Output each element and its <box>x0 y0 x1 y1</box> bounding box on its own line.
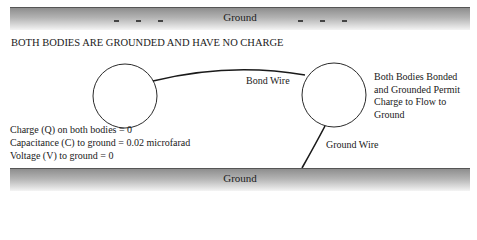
fact-charge: Charge (Q) on both bodies = 0 <box>10 123 190 136</box>
body-left-circle <box>93 64 157 128</box>
bottom-ground-bar: Ground <box>10 168 470 191</box>
right-note-line: Ground <box>374 109 460 122</box>
right-note-line: and Grounded Permit <box>374 84 460 97</box>
fact-capacitance: Capacitance (C) to ground = 0.02 microfa… <box>10 136 190 149</box>
right-note-line: Charge to Flow to <box>374 96 460 109</box>
ground-wire <box>302 126 325 168</box>
right-note: Both Bodies Bonded and Grounded Permit C… <box>374 71 460 121</box>
fact-voltage: Voltage (V) to ground = 0 <box>10 149 190 162</box>
facts-list: Charge (Q) on both bodies = 0 Capacitanc… <box>10 123 190 162</box>
body-right-circle <box>302 63 366 127</box>
ground-wire-label: Ground Wire <box>326 139 378 152</box>
bottom-ground-label: Ground <box>10 172 470 184</box>
bond-wire-label: Bond Wire <box>246 75 290 88</box>
right-note-line: Both Bodies Bonded <box>374 71 460 84</box>
